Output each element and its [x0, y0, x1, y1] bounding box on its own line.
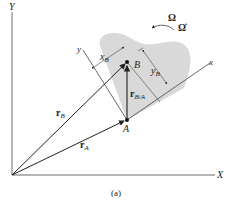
omega-dot-label: Ω̇	[178, 22, 187, 33]
y-axis-body-label: y	[76, 44, 81, 54]
omega-label: Ω	[168, 12, 176, 23]
Y-axis-label: Y	[9, 1, 16, 12]
vector-rB	[12, 64, 125, 175]
point-B-label: B	[134, 59, 140, 70]
point-A	[125, 118, 129, 122]
x-axis-body-label: x	[208, 57, 213, 67]
point-A-label: A	[122, 123, 130, 134]
figure-caption: (a)	[111, 188, 121, 198]
rotation-arrow-icon	[152, 25, 174, 30]
point-B	[125, 60, 129, 64]
vector-rA-label: rA	[80, 139, 89, 152]
X-axis-label: X	[216, 169, 224, 180]
relative-motion-diagram: Y X x y A B rA rB rB/A xB yB Ω Ω̇ (a)	[0, 0, 237, 200]
vector-rA	[12, 121, 124, 175]
vector-rB-label: rB	[56, 107, 65, 120]
rigid-body	[100, 33, 191, 120]
